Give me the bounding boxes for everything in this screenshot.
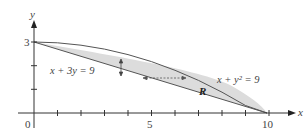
line-equation-label: x + 3y = 9 [50, 66, 95, 77]
y-axis-label: y [30, 9, 35, 20]
x-tick-label-5: 5 [147, 119, 153, 130]
parabola-equation-label: x + y² = 9 [217, 75, 259, 86]
x-tick-label-10: 10 [262, 119, 273, 130]
region-label: R [199, 86, 206, 97]
region-diagram [0, 0, 307, 137]
x-axis-arrow-icon [288, 110, 296, 116]
x-axis-label: x [298, 107, 303, 118]
y-axis-arrow-icon [31, 20, 37, 28]
x-tick-label-0: 0 [25, 119, 31, 130]
y-tick-label-3: 3 [24, 37, 30, 48]
